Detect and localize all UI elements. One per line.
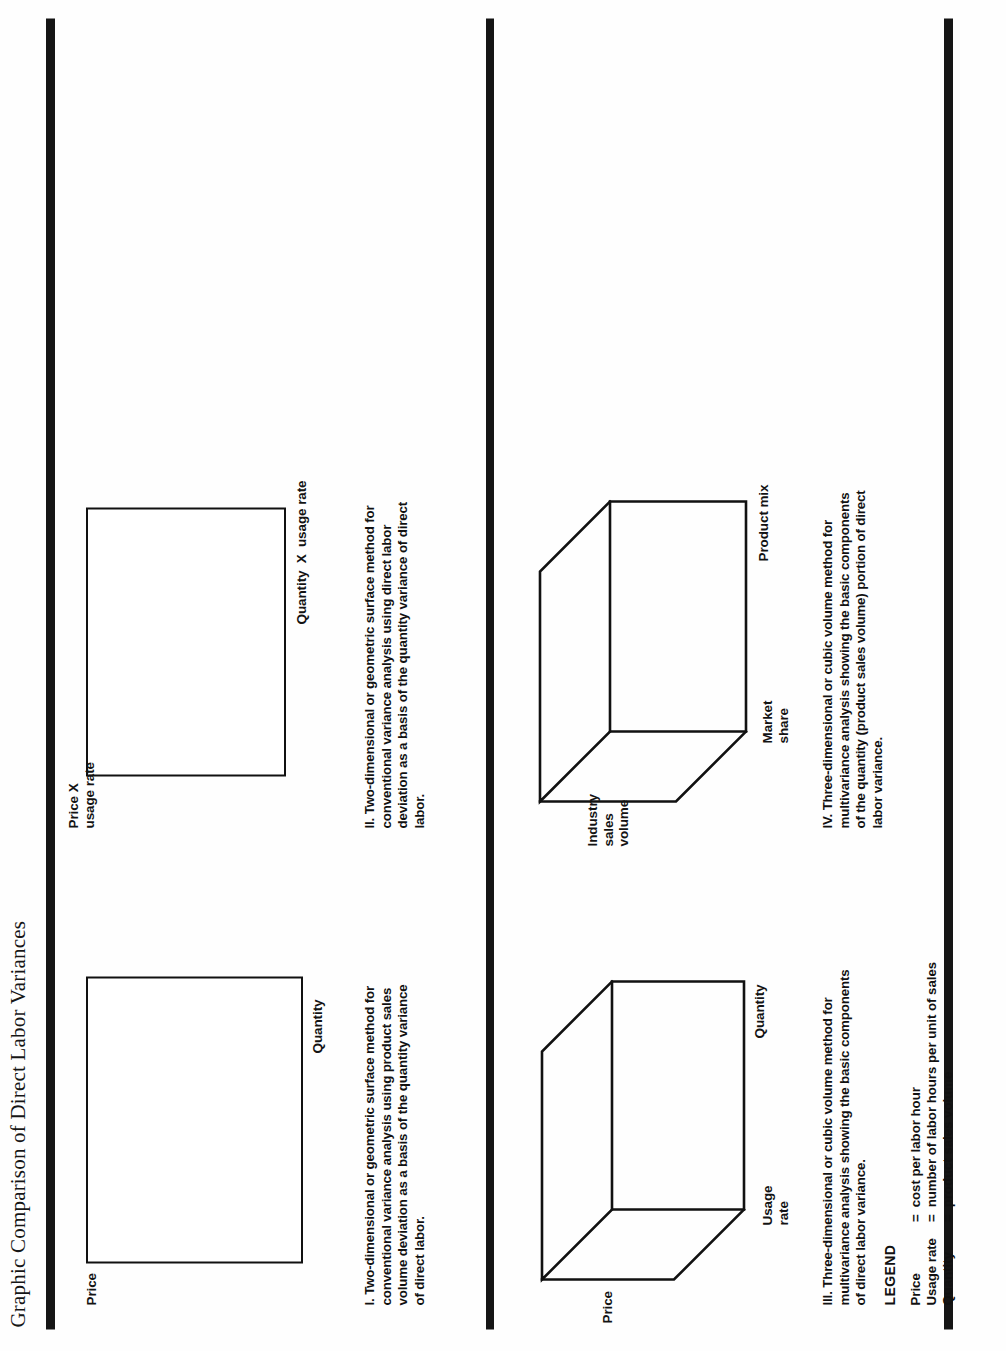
panel-1-horizontal-axis-label: Quantity [310, 999, 326, 1053]
panel-3-caption: III. Three-dimensional or cubic volume m… [820, 961, 870, 1305]
panel-4-vertical-axis-label: Industry sales volume [585, 794, 632, 846]
panel-4-cube [520, 453, 770, 803]
panel-3-depth-axis-label: Usage rate [760, 1185, 791, 1225]
legend-definition: product sales volume [940, 961, 956, 1206]
legend-row: Quantity = product sales volume [940, 961, 956, 1305]
divider-rule-middle [486, 18, 494, 1329]
panel-2-rectangle [86, 507, 286, 776]
legend-equals: = [908, 1207, 924, 1222]
legend-row: Price = cost per labor hour [908, 961, 924, 1305]
legend-term: Price [908, 1222, 924, 1305]
legend-definition: number of labor hours per unit of sales [924, 961, 940, 1206]
legend-title: LEGEND [882, 1244, 898, 1305]
panel-1-vertical-axis-label: Price [84, 1272, 100, 1305]
panel-4-caption: IV. Three-dimensional or cubic volume me… [820, 478, 886, 828]
panel-2-caption: II. Two-dimensional or geometric surface… [362, 484, 428, 828]
legend-row: Usage rate = number of labor hours per u… [924, 961, 940, 1305]
legend-term: Usage rate [924, 1222, 940, 1305]
legend-definition: cost per labor hour [908, 961, 924, 1206]
rotated-figure-wrapper: Graphic Comparison of Direct Labor Varia… [0, 0, 1006, 1351]
panel-3-cube [520, 941, 760, 1281]
panel-4-horizontal-axis-label: Product mix [756, 484, 772, 561]
figure-page: Graphic Comparison of Direct Labor Varia… [0, 0, 1006, 1351]
page-title: Graphic Comparison of Direct Labor Varia… [6, 920, 31, 1327]
legend-equals: = [940, 1207, 956, 1222]
panel-3-vertical-axis-label: Price [600, 1290, 616, 1323]
legend-equals: = [924, 1207, 940, 1222]
panel-2-horizontal-axis-label: Quantity X usage rate [294, 480, 310, 624]
panel-2-vertical-axis-label: Price X usage rate [66, 761, 97, 828]
panel-1-caption: I. Two-dimensional or geometric surface … [362, 969, 428, 1305]
legend-table: Price = cost per labor hour Usage rate =… [908, 961, 956, 1305]
panel-4-depth-axis-label: Market share [760, 700, 791, 743]
legend-term: Quantity [940, 1222, 956, 1305]
panel-3-horizontal-axis-label: Quantity [752, 984, 768, 1038]
panel-1-rectangle [86, 976, 303, 1263]
divider-rule-top [46, 18, 55, 1329]
